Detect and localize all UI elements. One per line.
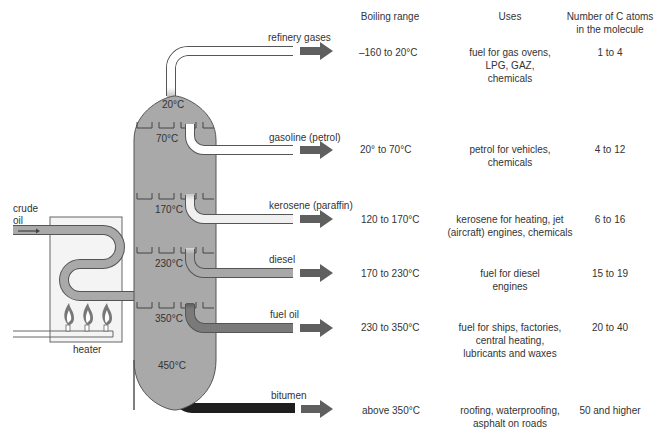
uses-line: fuel for ships, factories, <box>440 321 580 334</box>
uses-line: chemicals <box>440 72 580 85</box>
pipe-refinery-gases <box>171 51 293 100</box>
fraction-name-bitumen: bitumen <box>271 390 307 401</box>
crude-oil-label: crude oil <box>13 203 38 227</box>
carbon-atoms-bitumen: 50 and higher <box>565 404 655 417</box>
carbon-atoms-refinery-gases: 1 to 4 <box>570 46 650 59</box>
fraction-name-diesel: diesel <box>269 254 295 265</box>
uses-line: fuel for diesel <box>440 267 580 280</box>
uses-gasoline: petrol for vehicles, chemicals <box>440 143 580 169</box>
crude-oil-label-line1: crude <box>13 203 38 215</box>
temp-label-230: 230°C <box>155 258 183 269</box>
uses-line: central heating, <box>440 334 580 347</box>
uses-line: chemicals <box>440 156 580 169</box>
boiling-range-bitumen: above 350°C <box>362 404 420 417</box>
uses-diesel: fuel for diesel engines <box>440 267 580 293</box>
header-carbon-atoms-line1: Number of C atoms <box>560 10 658 23</box>
uses-refinery-gases: fuel for gas ovens, LPG, GAZ, chemicals <box>440 46 580 85</box>
temp-label-170: 170°C <box>155 204 183 215</box>
uses-line: LPG, GAZ, <box>440 59 580 72</box>
uses-line: lubricants and waxes <box>440 347 580 360</box>
header-carbon-atoms-line2: in the molecule <box>560 23 658 36</box>
uses-line: roofing, waterproofing, <box>440 404 580 417</box>
crude-oil-label-line2: oil <box>13 215 38 227</box>
arrow-icon-gasoline <box>300 141 333 159</box>
heater-label: heater <box>73 344 101 355</box>
fraction-name-kerosene: kerosene (paraffin) <box>269 200 353 211</box>
arrow-icon-fuel-oil <box>300 319 333 337</box>
uses-line: (aircraft) engines, chemicals <box>425 226 595 239</box>
boiling-range-kerosene: 120 to 170°C <box>361 213 420 226</box>
carbon-atoms-gasoline: 4 to 12 <box>570 143 650 156</box>
uses-bitumen: roofing, waterproofing, asphalt on roads <box>440 404 580 430</box>
arrow-icon-refinery-gases <box>300 42 333 60</box>
uses-line: fuel for gas ovens, <box>440 46 580 59</box>
header-boiling-range: Boiling range <box>355 10 425 23</box>
boiling-range-refinery-gases: –160 to 20°C <box>359 46 418 59</box>
carbon-atoms-fuel-oil: 20 to 40 <box>570 321 650 334</box>
fraction-name-gasoline: gasoline (petrol) <box>269 132 341 143</box>
fraction-name-fuel-oil: fuel oil <box>270 309 299 320</box>
boiling-range-diesel: 170 to 230°C <box>361 267 420 280</box>
arrow-icon-bitumen <box>301 400 333 418</box>
carbon-atoms-kerosene: 6 to 16 <box>570 213 650 226</box>
temp-label-bottom: 450°C <box>158 360 186 371</box>
uses-line: engines <box>440 280 580 293</box>
boiling-range-fuel-oil: 230 to 350°C <box>361 321 420 334</box>
boiling-range-gasoline: 20° to 70°C <box>360 143 411 156</box>
temp-label-350: 350°C <box>155 313 183 324</box>
temp-label-top: 20°C <box>162 99 184 110</box>
carbon-atoms-diesel: 15 to 19 <box>570 267 650 280</box>
arrow-icon-diesel <box>300 264 333 282</box>
uses-line: asphalt on roads <box>440 417 580 430</box>
arrow-icon-kerosene <box>300 210 333 228</box>
fraction-name-refinery-gases: refinery gases <box>268 32 331 43</box>
header-uses: Uses <box>460 10 560 23</box>
header-carbon-atoms: Number of C atoms in the molecule <box>560 10 658 36</box>
temp-label-70: 70°C <box>156 133 178 144</box>
uses-line: petrol for vehicles, <box>440 143 580 156</box>
uses-fuel-oil: fuel for ships, factories, central heati… <box>440 321 580 360</box>
